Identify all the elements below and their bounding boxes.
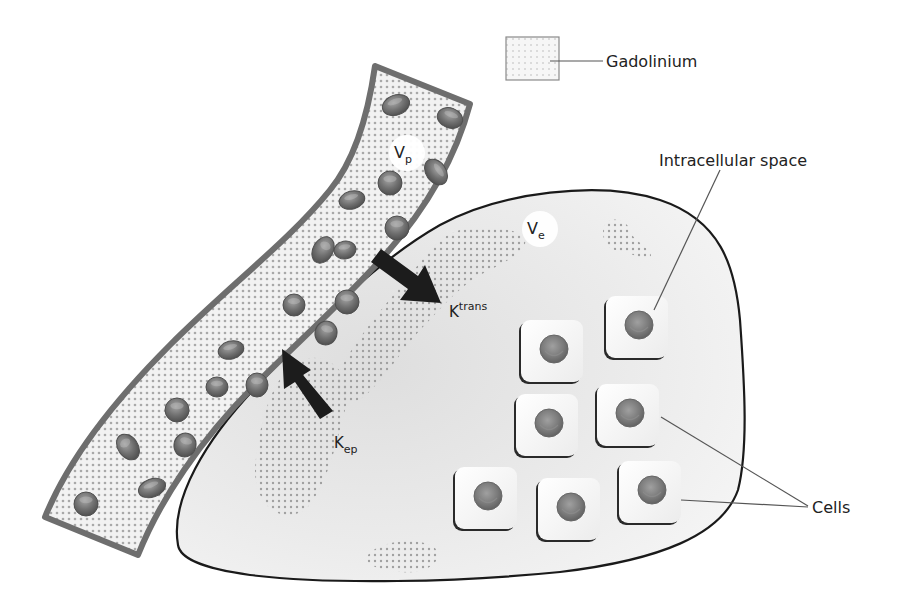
red-blood-cell-icon [206, 377, 228, 397]
legend-gadolinium-label: Gadolinium [606, 52, 697, 71]
cell-icon [514, 394, 578, 458]
nucleus-icon [557, 493, 585, 521]
red-blood-cell-icon [165, 398, 189, 422]
nucleus-icon [535, 409, 563, 437]
red-blood-cell-icon [385, 216, 409, 240]
cell-icon [453, 467, 517, 531]
red-blood-cell-icon [335, 290, 359, 314]
vp-label: Vp [389, 135, 425, 171]
red-blood-cell-icon [74, 492, 98, 516]
vp-symbol: V [394, 143, 405, 162]
cell-icon [617, 461, 681, 525]
cell-icon [536, 478, 600, 542]
ve-label: Ve [522, 211, 558, 247]
vp-subscript: p [405, 153, 412, 166]
ve-subscript: e [538, 229, 545, 242]
ktrans-superscript: trans [459, 300, 488, 313]
cell-icon [519, 320, 583, 384]
nucleus-icon [616, 399, 644, 427]
nucleus-icon [540, 335, 568, 363]
nucleus-icon [474, 482, 502, 510]
cells-label: Cells [812, 498, 850, 517]
dotted-square-icon [506, 37, 559, 80]
nucleus-icon [638, 476, 666, 504]
cell-icon [595, 384, 659, 448]
nucleus-icon [625, 311, 653, 339]
compartment-diagram: Vp Ve Ktrans Kep Gadolinium Intracellula… [0, 0, 898, 614]
red-blood-cell-icon [378, 171, 402, 195]
kep-subscript: ep [344, 443, 358, 456]
red-blood-cell-icon [283, 294, 305, 316]
cell-icon [604, 296, 668, 360]
legend: Gadolinium [506, 37, 697, 80]
red-blood-cell-icon [246, 373, 268, 397]
ve-symbol: V [527, 219, 538, 238]
intracellular-space-label: Intracellular space [659, 151, 807, 170]
